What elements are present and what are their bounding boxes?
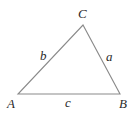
side-label-c: c — [65, 95, 71, 110]
side-label-a: a — [106, 49, 113, 64]
side-label-b: b — [40, 48, 47, 63]
vertex-label-c: C — [78, 6, 87, 21]
vertex-label-a: A — [6, 96, 15, 111]
triangle-diagram: C b a A c B — [0, 0, 137, 114]
vertex-label-b: B — [119, 96, 127, 111]
triangle-shape — [18, 25, 120, 94]
